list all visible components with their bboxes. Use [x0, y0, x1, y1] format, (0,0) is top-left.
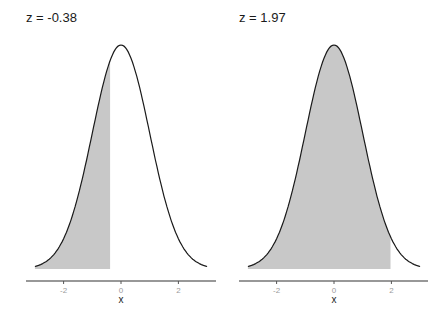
x-tick-label: 2 [389, 286, 394, 295]
panel-left: z = -0.38 -202 x [0, 0, 224, 319]
chart-left: -202 x [0, 0, 224, 319]
shaded-area [248, 45, 391, 269]
shaded-area [35, 61, 110, 269]
chart-right: -202 x [213, 0, 448, 319]
density-curve [35, 45, 207, 267]
x-axis-title: x [332, 294, 337, 305]
x-axis-ticks: -202 [273, 281, 394, 295]
x-axis-ticks: -202 [60, 281, 181, 295]
x-tick-label: -2 [60, 286, 68, 295]
x-axis-title: x [119, 294, 124, 305]
x-tick-label: -2 [273, 286, 281, 295]
x-tick-label: 2 [176, 286, 181, 295]
panel-right: z = 1.97 -202 x [213, 0, 437, 319]
